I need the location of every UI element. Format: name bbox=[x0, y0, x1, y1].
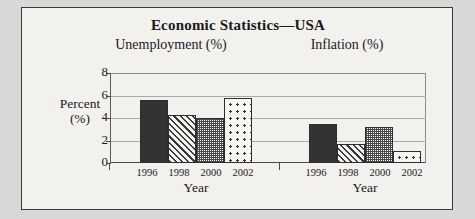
x-tick-label: 1998 bbox=[334, 167, 362, 178]
x-tick-label: 2002 bbox=[229, 167, 257, 178]
chart-frame: Economic Statistics—USA Unemployment (%)… bbox=[21, 7, 453, 210]
bar-inflation-2000 bbox=[365, 127, 393, 163]
y-tick-mark bbox=[106, 96, 111, 97]
chart-page: Economic Statistics—USA Unemployment (%)… bbox=[0, 0, 475, 219]
x-axis-label-inflation: Year bbox=[300, 180, 430, 196]
x-tick-labels-inflation: 1996199820002002 bbox=[300, 167, 430, 178]
y-tick-label: 2 bbox=[74, 132, 108, 148]
plot-area: 02468 bbox=[110, 73, 426, 163]
y-tick-mark bbox=[106, 141, 111, 142]
x-tick-label: 1996 bbox=[133, 167, 161, 178]
bar-inflation-1998 bbox=[337, 144, 365, 163]
y-tick-label: 6 bbox=[74, 87, 108, 103]
bar-unemployment-2000 bbox=[196, 118, 224, 163]
x-tick-labels-unemployment: 1996199820002002 bbox=[131, 167, 261, 178]
x-axis-label-unemployment: Year bbox=[131, 180, 261, 196]
x-axis-separator-tick bbox=[279, 163, 280, 170]
page-title: Economic Statistics—USA bbox=[22, 17, 454, 34]
y-tick-label: 0 bbox=[74, 154, 108, 170]
x-axis-separator-tick bbox=[109, 163, 110, 170]
bar-unemployment-2002 bbox=[224, 98, 252, 163]
panel-subtitle-inflation: Inflation (%) bbox=[272, 37, 422, 53]
x-tick-label: 2000 bbox=[366, 167, 394, 178]
gridline bbox=[110, 96, 426, 97]
bar-inflation-1996 bbox=[309, 124, 337, 163]
x-tick-label: 2000 bbox=[197, 167, 225, 178]
x-tick-label: 2002 bbox=[398, 167, 426, 178]
x-tick-label: 1998 bbox=[165, 167, 193, 178]
panel-subtitle-unemployment: Unemployment (%) bbox=[86, 37, 256, 53]
y-tick-label: 4 bbox=[74, 109, 108, 125]
bar-inflation-2002 bbox=[393, 151, 421, 163]
y-tick-label: 8 bbox=[74, 64, 108, 80]
y-tick-mark bbox=[106, 73, 111, 74]
y-tick-mark bbox=[106, 118, 111, 119]
bar-unemployment-1998 bbox=[168, 115, 196, 163]
bar-unemployment-1996 bbox=[140, 100, 168, 163]
x-tick-label: 1996 bbox=[302, 167, 330, 178]
